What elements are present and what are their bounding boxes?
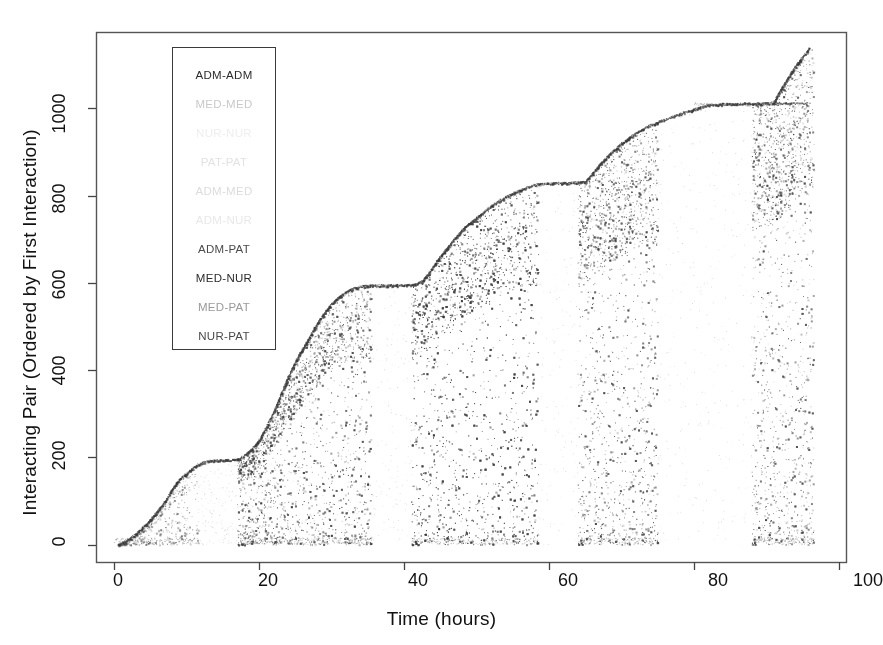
x-tick-label-40: 40 bbox=[408, 570, 428, 591]
legend-entry-nur-nur: NUR-NUR bbox=[173, 127, 275, 139]
x-tick-label-80: 80 bbox=[708, 570, 728, 591]
figure-root: 0 20 40 60 80 100 0 200 400 600 800 1000… bbox=[0, 0, 883, 645]
legend-entry-adm-pat: ADM-PAT bbox=[173, 243, 275, 255]
y-tick-label-600: 600 bbox=[49, 259, 70, 311]
y-tick-label-0: 0 bbox=[49, 527, 70, 557]
legend-entry-adm-nur: ADM-NUR bbox=[173, 214, 275, 226]
legend: ADM-ADM MED-MED NUR-NUR PAT-PAT ADM-MED … bbox=[172, 47, 276, 350]
legend-entry-med-nur: MED-NUR bbox=[173, 272, 275, 284]
legend-entry-adm-adm: ADM-ADM bbox=[173, 69, 275, 81]
legend-entry-med-med: MED-MED bbox=[173, 98, 275, 110]
x-tick-label-0: 0 bbox=[113, 570, 123, 591]
y-axis-title: Interacting Pair (Ordered by First Inter… bbox=[14, 0, 46, 645]
x-tick-label-100: 100 bbox=[853, 570, 883, 591]
scatter-plot-canvas bbox=[0, 0, 883, 645]
y-tick-label-200: 200 bbox=[49, 430, 70, 482]
x-tick-label-20: 20 bbox=[258, 570, 278, 591]
y-tick-label-800: 800 bbox=[49, 173, 70, 225]
x-tick-label-60: 60 bbox=[558, 570, 578, 591]
legend-entry-nur-pat: NUR-PAT bbox=[173, 330, 275, 342]
legend-entry-pat-pat: PAT-PAT bbox=[173, 156, 275, 168]
legend-entry-adm-med: ADM-MED bbox=[173, 185, 275, 197]
y-tick-label-400: 400 bbox=[49, 345, 70, 397]
y-tick-label-1000: 1000 bbox=[49, 83, 70, 145]
legend-entry-med-pat: MED-PAT bbox=[173, 301, 275, 313]
x-axis-title: Time (hours) bbox=[0, 608, 883, 630]
